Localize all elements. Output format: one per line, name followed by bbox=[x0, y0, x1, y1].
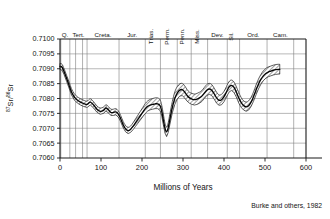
x-axis-title: Millions of Years bbox=[153, 183, 212, 192]
y-tick-label: 0.7090 bbox=[33, 64, 55, 73]
period-label-dev: Dev. bbox=[211, 31, 224, 38]
source-credit: Burke and others, 1982 bbox=[251, 202, 322, 209]
period-label-miss: Miss. bbox=[193, 29, 200, 44]
y-tick-label: 0.7080 bbox=[33, 94, 55, 103]
y-tick-label: 0.7100 bbox=[33, 34, 55, 43]
period-label-penn: Penn. bbox=[178, 28, 185, 44]
period-label-q: Q. bbox=[62, 31, 69, 38]
period-label-ord: Ord. bbox=[247, 31, 259, 38]
period-label-cam: Cam. bbox=[273, 31, 288, 38]
strontium-isotope-chart: 0.70600.70650.70700.70750.70800.70850.70… bbox=[0, 0, 330, 219]
x-tick-label: 500 bbox=[259, 163, 271, 172]
y-tick-label: 0.7060 bbox=[33, 153, 55, 162]
y-tick-label: 0.7095 bbox=[33, 49, 55, 58]
x-tick-label: 400 bbox=[218, 163, 230, 172]
period-label-jur: Jur. bbox=[127, 31, 137, 38]
x-tick-label: 200 bbox=[136, 163, 148, 172]
period-label-sil: Sil. bbox=[227, 32, 234, 41]
period-label-trias: Trias. bbox=[147, 29, 154, 45]
y-axis-tick-labels: 0.70600.70650.70700.70750.70800.70850.70… bbox=[33, 34, 55, 162]
period-label-tert: Tert. bbox=[72, 31, 84, 38]
x-tick-label: 300 bbox=[177, 163, 189, 172]
y-tick-label: 0.7070 bbox=[33, 124, 55, 133]
period-label-creta: Creta. bbox=[95, 31, 112, 38]
x-tick-label: 600 bbox=[300, 163, 312, 172]
y-tick-label: 0.7075 bbox=[33, 109, 55, 118]
y-tick-label: 0.7085 bbox=[33, 79, 55, 88]
x-tick-label: 100 bbox=[95, 163, 107, 172]
period-label-perm: Perm. bbox=[163, 28, 170, 45]
y-tick-label: 0.7065 bbox=[33, 139, 55, 148]
y-axis-title-tail: Sr bbox=[6, 84, 15, 92]
x-tick-label: 0 bbox=[58, 163, 62, 172]
